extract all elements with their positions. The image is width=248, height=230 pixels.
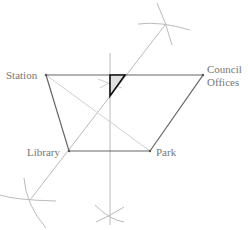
vertex-park — [149, 150, 151, 152]
label-offices: Offices — [207, 76, 239, 88]
vertex-station — [45, 74, 47, 76]
label-park: Park — [156, 146, 176, 158]
station-park-diagonal — [46, 75, 150, 151]
vertex-library — [68, 150, 70, 152]
label-council: Council — [207, 63, 242, 75]
construction-diagram — [0, 0, 248, 230]
highlight-triangle — [110, 75, 125, 96]
vertex-council-offices — [202, 74, 204, 76]
label-station: Station — [6, 69, 37, 81]
diagram-canvas: Station Council Offices Library Park — [0, 0, 248, 230]
quadrilateral — [46, 75, 203, 151]
construction-arc-bottom-2 — [24, 178, 46, 228]
label-library: Library — [27, 146, 60, 158]
